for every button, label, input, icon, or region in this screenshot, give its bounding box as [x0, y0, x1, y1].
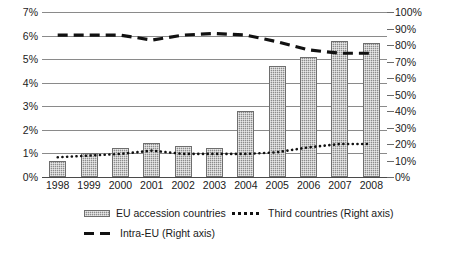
x-axis-tick: 2003: [203, 180, 226, 191]
right-axis-tick: 60%: [395, 73, 416, 84]
x-axis-tick: 2001: [140, 180, 163, 191]
right-axis-tick: 30%: [395, 122, 416, 133]
right-axis-tick: 90%: [395, 23, 416, 34]
line-series-layer: [42, 12, 387, 177]
x-axis-tick: 2005: [266, 180, 289, 191]
legend-item-intra-eu: Intra-EU (Right axis): [84, 228, 215, 239]
left-axis-tick: 4%: [23, 77, 38, 88]
right-axis-tick-mark: [387, 111, 394, 112]
right-axis-tick-mark: [387, 95, 394, 96]
chart-legend: EU accession countries Third countries (…: [0, 202, 471, 246]
right-axis-tick-mark: [387, 144, 394, 145]
left-axis-tick: 0%: [23, 172, 38, 183]
chart-container: 0%1%2%3%4%5%6%7% 0%10%20%30%40%50%60%70%…: [0, 0, 471, 255]
right-axis-tick: 70%: [395, 56, 416, 67]
legend-label: Intra-EU (Right axis): [120, 228, 215, 239]
right-axis-tick: 20%: [395, 139, 416, 150]
right-axis-tick: 10%: [395, 155, 416, 166]
bar-swatch-icon: [84, 210, 110, 217]
right-axis-tick: 50%: [395, 89, 416, 100]
right-axis-tick-mark: [387, 161, 394, 162]
right-axis-tick-mark: [387, 128, 394, 129]
right-axis-tick-mark: [387, 177, 394, 178]
right-axis-tick-mark: [387, 62, 394, 63]
legend-item-eu-accession-countries: EU accession countries: [84, 208, 226, 219]
right-axis-tick: 80%: [395, 40, 416, 51]
x-axis-labels: 1998199920002001200220032004200520062007…: [42, 180, 387, 196]
line-dashed: [58, 33, 372, 53]
right-axis-tick: 0%: [395, 172, 410, 183]
right-axis-tick-mark: [387, 45, 394, 46]
left-axis-tick: 2%: [23, 125, 38, 136]
left-axis-tick: 5%: [23, 54, 38, 65]
left-axis-tick: 7%: [23, 7, 38, 18]
left-axis-tick: 1%: [23, 148, 38, 159]
dashed-line-icon: [84, 232, 114, 235]
x-axis-tick: 2004: [234, 180, 257, 191]
right-axis-tick-mark: [387, 29, 394, 30]
plot-area: [42, 12, 387, 177]
dotted-line-icon: [232, 212, 262, 215]
legend-item-third-countries: Third countries (Right axis): [232, 208, 393, 219]
right-axis-tick-mark: [387, 78, 394, 79]
x-axis-tick: 1999: [77, 180, 100, 191]
right-axis-labels: 0%10%20%30%40%50%60%70%80%90%100%: [395, 12, 455, 177]
x-axis-tick: 2002: [171, 180, 194, 191]
right-axis-tick: 100%: [395, 7, 422, 18]
x-axis-tick: 1998: [46, 180, 69, 191]
right-axis-tick-mark: [387, 12, 394, 13]
x-axis-tick: 2008: [360, 180, 383, 191]
legend-label: Third countries (Right axis): [268, 208, 393, 219]
x-axis-tick: 2006: [297, 180, 320, 191]
x-axis-tick: 2007: [328, 180, 351, 191]
right-axis-tick: 40%: [395, 106, 416, 117]
x-axis-tick: 2000: [109, 180, 132, 191]
gridline: [42, 177, 387, 178]
left-axis-labels: 0%1%2%3%4%5%6%7%: [2, 12, 38, 177]
left-axis-tick: 6%: [23, 30, 38, 41]
left-axis-tick: 3%: [23, 101, 38, 112]
line-dotted: [58, 144, 372, 157]
legend-label: EU accession countries: [116, 208, 226, 219]
